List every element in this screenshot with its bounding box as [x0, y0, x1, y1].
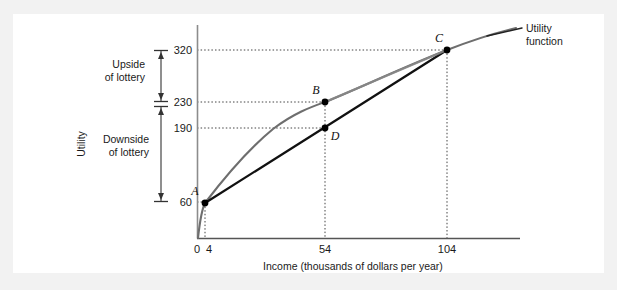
y-tick-label-230: 230	[174, 96, 192, 108]
upside-arrowhead-bottom	[158, 93, 164, 100]
chord-highlight-segment	[325, 50, 447, 102]
data-point-a[interactable]	[202, 200, 209, 207]
data-point-d[interactable]	[322, 125, 329, 132]
upside-of-lottery-annotation: Upside of lottery	[105, 58, 146, 83]
utility-function-leader-line	[487, 28, 522, 36]
x-tick-label-0: 0	[194, 243, 200, 255]
x-tick-label-54: 54	[319, 243, 331, 255]
x-axis-title: Income (thousands of dollars per year)	[263, 260, 443, 272]
downside-arrowhead-bottom	[158, 193, 164, 200]
utility-function-callout-line2: function	[526, 35, 563, 47]
utility-function-callout: Utility function	[526, 22, 563, 47]
y-tick-label-60: 60	[180, 196, 192, 208]
y-tick-label-320: 320	[174, 44, 192, 56]
y-tick-label-190: 190	[174, 122, 192, 134]
upside-annotation-line1: Upside	[112, 58, 145, 70]
upside-annotation-line2: of lottery	[105, 71, 146, 83]
utility-function-callout-line1: Utility	[526, 22, 552, 34]
x-axis-ticks: 0 4 54 104	[194, 243, 456, 255]
y-axis-title: Utility	[75, 130, 87, 156]
downside-of-lottery-annotation: Downside of lottery	[103, 133, 150, 158]
point-label-c: C	[435, 31, 444, 45]
downside-annotation-line2: of lottery	[109, 146, 150, 158]
figure-root: A B D C 320 230 190 60 0 4 54 104 Income…	[0, 0, 617, 290]
chart-axes	[197, 25, 520, 239]
vertical-guide-lines	[205, 50, 447, 238]
data-point-b[interactable]	[322, 99, 329, 106]
point-label-b: B	[312, 83, 320, 97]
utility-function-curve	[198, 28, 516, 238]
utility-function-chart: A B D C 320 230 190 60 0 4 54 104 Income…	[13, 14, 604, 273]
downside-arrowhead-top	[158, 108, 164, 115]
x-tick-label-4: 4	[206, 243, 212, 255]
y-axis-ticks: 320 230 190 60	[174, 44, 192, 208]
upside-arrowhead-top	[158, 52, 164, 59]
downside-annotation-line1: Downside	[103, 133, 149, 145]
measurement-brackets	[154, 50, 168, 202]
data-point-c[interactable]	[444, 47, 451, 54]
x-tick-label-104: 104	[438, 243, 456, 255]
point-label-d: D	[330, 129, 340, 143]
chart-panel: A B D C 320 230 190 60 0 4 54 104 Income…	[13, 14, 604, 273]
